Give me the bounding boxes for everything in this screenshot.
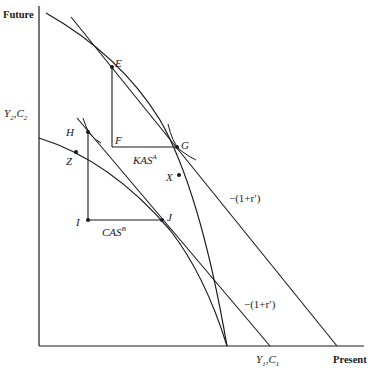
x-axis-title: Present bbox=[333, 355, 367, 366]
label-e: E bbox=[115, 58, 122, 69]
cas-label: CASB bbox=[102, 226, 126, 238]
label-i: I bbox=[76, 217, 80, 228]
kas-label: KASA bbox=[133, 154, 157, 166]
point-z bbox=[74, 150, 78, 154]
point-i bbox=[86, 218, 90, 222]
x-axis-label: Y1,C1 bbox=[256, 354, 279, 368]
slope-label-upper: −(1+r′) bbox=[229, 193, 260, 204]
point-g bbox=[175, 145, 179, 149]
y-axis-label: Y2,C2 bbox=[4, 108, 27, 122]
lower-ppf-curve bbox=[39, 138, 227, 346]
label-j: J bbox=[167, 212, 172, 223]
y-axis-title: Future bbox=[3, 10, 34, 21]
point-j bbox=[160, 218, 164, 222]
label-x: X bbox=[166, 172, 173, 183]
point-x bbox=[177, 173, 181, 177]
label-h: H bbox=[66, 127, 74, 138]
indifference-curve-h bbox=[83, 118, 101, 143]
label-z: Z bbox=[66, 156, 72, 167]
slope-label-lower: −(1+r′) bbox=[244, 299, 275, 310]
upper-ppf-curve bbox=[46, 13, 227, 346]
point-h bbox=[86, 130, 90, 134]
label-g: G bbox=[181, 140, 189, 151]
point-e bbox=[110, 65, 114, 69]
label-f: F bbox=[115, 135, 122, 146]
diagram-canvas bbox=[0, 0, 374, 373]
